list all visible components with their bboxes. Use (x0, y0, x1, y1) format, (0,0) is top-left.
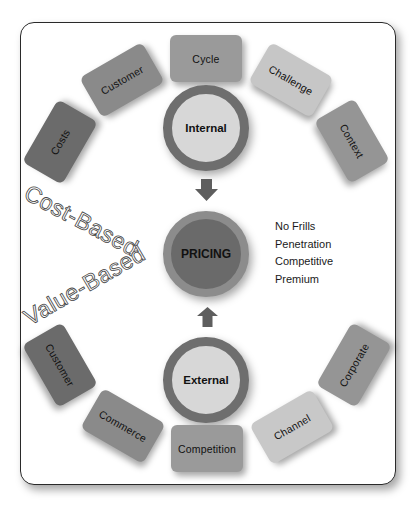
pricing-label: PRICING (181, 247, 231, 261)
strategy-item: Penetration (275, 236, 333, 254)
arrow-up-icon (197, 307, 218, 327)
pricing-strategies-list: No Frills Penetration Competitive Premiu… (275, 218, 333, 288)
pricing-circle: PRICING (163, 211, 249, 297)
arrow-down-icon (195, 179, 218, 201)
strategy-item: No Frills (275, 218, 333, 236)
factor-label: Challenge (267, 63, 316, 98)
factor-label: Customer (99, 63, 146, 97)
internal-circle: Internal (163, 85, 249, 171)
factor-label: Customer (43, 342, 77, 389)
factor-cycle: Cycle (170, 35, 242, 82)
factor-competition: Competition (171, 425, 243, 472)
external-circle: External (163, 337, 249, 423)
external-label: External (183, 374, 228, 386)
strategy-item: Premium (275, 271, 333, 289)
factor-label: Cycle (192, 53, 219, 65)
strategy-item: Competitive (275, 253, 333, 271)
factor-label: Context (337, 122, 366, 161)
factor-label: Corporate (337, 341, 372, 389)
factor-label: Commerce (97, 408, 149, 445)
factor-label: Costs (48, 127, 72, 157)
internal-label: Internal (185, 122, 227, 134)
factor-label: Channel (271, 412, 312, 443)
factor-label: Competition (178, 443, 236, 455)
